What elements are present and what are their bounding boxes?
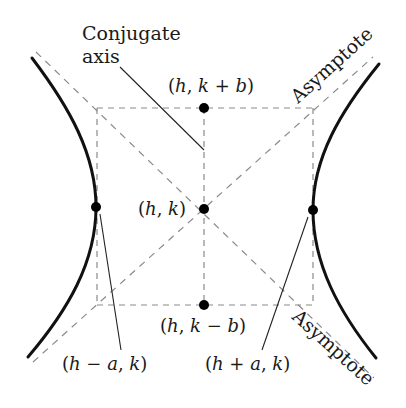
left-vertex-label: (h − a, k) — [62, 353, 147, 374]
asymptote-upper-label: Asymptote — [285, 22, 377, 107]
hyperbola-right-branch — [313, 64, 379, 358]
hyperbola-diagram: Conjugate axis Asymptote Asymptote (h, k… — [0, 0, 406, 408]
top-point — [199, 103, 209, 113]
bottom-point — [199, 300, 209, 310]
right-vertex-point — [308, 205, 318, 215]
center-point-label: (h, k) — [138, 198, 186, 219]
left-vertex-point — [91, 202, 101, 212]
top-point-label: (h, k + b) — [168, 75, 254, 96]
hyperbola-left-branch — [28, 58, 96, 357]
conjugate-axis-label-line1: Conjugate — [82, 22, 181, 44]
right-vertex-label: (h + a, k) — [205, 353, 290, 374]
center-point — [199, 204, 209, 214]
bottom-point-label: (h, k − b) — [160, 315, 246, 336]
left-vertex-leader — [100, 214, 121, 350]
conjugate-axis-label-line2: axis — [82, 45, 120, 67]
